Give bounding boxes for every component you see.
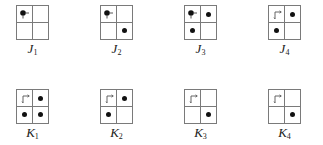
cell-tl bbox=[185, 90, 201, 107]
cell-br bbox=[33, 23, 49, 40]
cell-bl bbox=[101, 107, 117, 124]
dot-icon bbox=[38, 96, 43, 101]
panel-label: J2 bbox=[100, 42, 133, 60]
label-subscript: 4 bbox=[287, 132, 291, 141]
label-subscript: 3 bbox=[203, 132, 207, 141]
bent-arrow-icon bbox=[185, 90, 201, 106]
cell-br bbox=[117, 107, 133, 124]
dot-icon bbox=[206, 12, 211, 17]
label-subscript: 1 bbox=[33, 48, 37, 57]
dot-icon bbox=[22, 112, 27, 117]
dot-icon bbox=[190, 28, 195, 33]
bent-arrow-icon bbox=[17, 6, 33, 22]
cell-tr bbox=[33, 90, 49, 107]
panel-k4: K4 bbox=[268, 89, 323, 145]
cell-bl bbox=[185, 23, 201, 40]
label-letter: K bbox=[26, 125, 35, 140]
bent-arrow-icon bbox=[101, 90, 117, 106]
panel-label: K4 bbox=[268, 126, 301, 144]
grid-2x2 bbox=[100, 89, 133, 124]
cell-tr bbox=[285, 90, 301, 107]
panel-label: J3 bbox=[184, 42, 217, 60]
label-letter: K bbox=[194, 125, 203, 140]
cell-tl bbox=[101, 90, 117, 107]
dot-icon bbox=[106, 112, 111, 117]
cell-bl bbox=[269, 23, 285, 40]
panel-j2: J2 bbox=[100, 5, 160, 65]
cell-tl bbox=[17, 90, 33, 107]
dot-icon bbox=[274, 28, 279, 33]
label-letter: K bbox=[278, 125, 287, 140]
grid-2x2 bbox=[16, 5, 49, 40]
dot-icon bbox=[290, 112, 295, 117]
cell-bl bbox=[17, 107, 33, 124]
cell-tl bbox=[101, 6, 117, 23]
cell-br bbox=[117, 23, 133, 40]
cell-br bbox=[285, 107, 301, 124]
cell-tl bbox=[269, 90, 285, 107]
cell-tl bbox=[185, 6, 201, 23]
cell-tr bbox=[33, 6, 49, 23]
cell-br bbox=[201, 107, 217, 124]
cell-bl bbox=[17, 23, 33, 40]
cell-tl bbox=[269, 6, 285, 23]
panel-label: J1 bbox=[16, 42, 49, 60]
cell-br bbox=[201, 23, 217, 40]
dot-icon bbox=[206, 112, 211, 117]
panel-j1: J1 bbox=[16, 5, 76, 65]
dot-icon bbox=[38, 112, 43, 117]
bent-arrow-icon bbox=[17, 90, 33, 106]
grid-2x2 bbox=[184, 89, 217, 124]
label-subscript: 4 bbox=[285, 48, 289, 57]
panel-j4: J4 bbox=[268, 5, 323, 65]
grid-2x2 bbox=[100, 5, 133, 40]
cell-tl bbox=[17, 6, 33, 23]
panel-label: K2 bbox=[100, 126, 133, 144]
label-subscript: 2 bbox=[117, 48, 121, 57]
cell-bl bbox=[101, 23, 117, 40]
label-subscript: 1 bbox=[35, 132, 39, 141]
cell-tr bbox=[117, 90, 133, 107]
panel-k3: K3 bbox=[184, 89, 244, 145]
cell-bl bbox=[185, 107, 201, 124]
cell-br bbox=[33, 107, 49, 124]
cell-tr bbox=[285, 6, 301, 23]
panel-k2: K2 bbox=[100, 89, 160, 145]
grid-2x2 bbox=[184, 5, 217, 40]
grid-2x2 bbox=[268, 89, 301, 124]
grid-2x2 bbox=[16, 89, 49, 124]
dot-icon bbox=[122, 28, 127, 33]
panel-j3: J3 bbox=[184, 5, 244, 65]
panel-k1: K1 bbox=[16, 89, 76, 145]
label-letter: K bbox=[110, 125, 119, 140]
cell-tr bbox=[117, 6, 133, 23]
dot-icon bbox=[122, 96, 127, 101]
label-subscript: 2 bbox=[119, 132, 123, 141]
label-subscript: 3 bbox=[201, 48, 205, 57]
panel-label: J4 bbox=[268, 42, 301, 60]
bent-arrow-icon bbox=[101, 6, 117, 22]
grid-2x2 bbox=[268, 5, 301, 40]
cell-br bbox=[285, 23, 301, 40]
bent-arrow-icon bbox=[269, 6, 285, 22]
bent-arrow-icon bbox=[269, 90, 285, 106]
panel-label: K1 bbox=[16, 126, 49, 144]
cell-tr bbox=[201, 6, 217, 23]
dot-icon bbox=[290, 12, 295, 17]
cell-tr bbox=[201, 90, 217, 107]
cell-bl bbox=[269, 107, 285, 124]
panel-label: K3 bbox=[184, 126, 217, 144]
bent-arrow-icon bbox=[185, 6, 201, 22]
